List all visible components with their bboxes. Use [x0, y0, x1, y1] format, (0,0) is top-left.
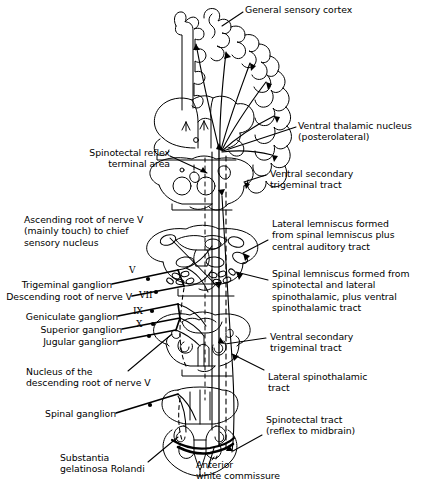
label-superior-ganglion: Superior ganglion: [4, 324, 122, 335]
nerve-marker-glossopharyngeal: IX: [133, 306, 143, 316]
label-descending-root-nerve-v: Descending root of nerve V: [4, 291, 132, 302]
label-lateral-spinothalamic-tract: Lateral spinothalamic tract: [268, 371, 367, 394]
anatomy-figure: General sensory cortex Ventral thalamic …: [0, 0, 430, 491]
label-substantia-gelatinosa-rolandi: Substantia gelatinosa Rolandi: [60, 452, 145, 475]
pons-section: [147, 225, 258, 296]
medulla-section: [154, 312, 251, 376]
label-spinal-ganglion: Spinal ganglion: [4, 408, 116, 419]
ascending-tract-lines: [205, 150, 234, 452]
label-geniculate-ganglion: Geniculate ganglion: [4, 311, 118, 322]
label-nucleus-descending-root-nerve-v: Nucleus of the descending root of nerve …: [26, 366, 151, 389]
label-anterior-white-commissure: Anterior white commissure: [196, 459, 280, 482]
nerve-marker-facial: VII: [139, 290, 153, 300]
label-jugular-ganglion: Jugular ganglion: [4, 336, 118, 347]
nerve-marker-trigeminal: V: [129, 265, 136, 275]
label-general-sensory-cortex: General sensory cortex: [245, 4, 352, 15]
label-spinotectal-reflex-terminal-area: Spinotectal reflex terminal area: [66, 147, 170, 170]
label-ventral-secondary-trigeminal-tract-lower: Ventral secondary trigeminal tract: [270, 331, 353, 354]
label-ascending-root-nerve-v: Ascending root of nerve V (mainly touch)…: [24, 214, 143, 248]
spinal-ganglion-lines: [116, 394, 178, 413]
label-ventral-secondary-trigeminal-tract-upper: Ventral secondary trigeminal tract: [270, 168, 353, 191]
label-trigeminal-ganglion: Trigeminal ganglion: [4, 279, 112, 290]
nerve-marker-vagus: X: [136, 319, 142, 329]
leader-arrowheads: [200, 143, 250, 451]
label-spinal-lemniscus: Spinal lemniscus formed from spinotectal…: [272, 268, 409, 314]
label-ventral-thalamic-nucleus: Ventral thalamic nucleus (posterolateral…: [298, 120, 412, 143]
spinal-root-fibers: [178, 394, 196, 440]
label-lateral-lemniscus: Lateral lemniscus formed from spinal lem…: [272, 218, 394, 252]
label-spinotectal-tract: Spinotectal tract (reflex to midbrain): [266, 414, 355, 437]
